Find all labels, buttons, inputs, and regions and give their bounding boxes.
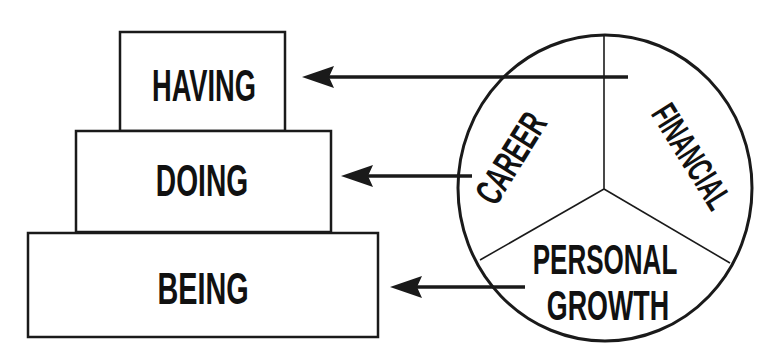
having-label: HAVING xyxy=(152,61,256,110)
pyramid-level-having: HAVING xyxy=(120,32,285,131)
personal-growth-label: PERSONAL GROWTH xyxy=(533,236,678,329)
pyramid-level-doing: DOING xyxy=(76,131,331,232)
pyramid-level-being: BEING xyxy=(28,233,378,337)
growth-label: GROWTH xyxy=(547,282,669,328)
being-doing-having-diagram: HAVING DOING BEING CAREER FINANCIAL PERS… xyxy=(0,0,784,361)
life-areas-wheel: CAREER FINANCIAL PERSONAL GROWTH xyxy=(458,35,752,341)
being-label: BEING xyxy=(157,264,248,314)
arrow-career-to-doing xyxy=(341,165,472,187)
personal-label: PERSONAL xyxy=(533,236,678,283)
doing-label: DOING xyxy=(156,157,248,206)
